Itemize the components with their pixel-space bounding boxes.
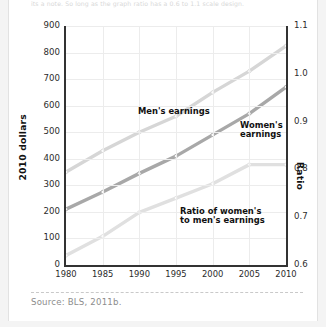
plot-region: 0100200300400500600700800900 0.60.70.80.… [66, 26, 286, 265]
x-axis-line [64, 265, 288, 267]
y-axis-left-tick-label: 300 [20, 179, 60, 189]
x-axis-tick-label: 2010 [264, 269, 308, 279]
y-axis-left-tick-label: 600 [20, 100, 60, 110]
y-axis-left-tick-label: 800 [20, 47, 60, 57]
series-label-ratio: Ratio of women's to men's earnings [180, 207, 265, 226]
y-axis-left-tick-label: 700 [20, 73, 60, 83]
y-axis-left-tick-label: 400 [20, 153, 60, 163]
screenshot-root: its a note. So long as the graph ratio h… [0, 0, 326, 327]
gridline-vertical [139, 26, 140, 265]
gridline-vertical [176, 26, 177, 265]
y-axis-right-tick-label: 0.6 [294, 259, 326, 269]
series-label-mens-earnings: Men's earnings [138, 107, 210, 116]
y-axis-right-tick-label: 0.7 [294, 211, 326, 221]
y-axis-left-line [64, 26, 66, 265]
y-axis-right-tick-label: 0.9 [294, 116, 326, 126]
chart-area: 2010 dollars Ratio 010020030040050060070… [9, 14, 319, 286]
series-point [66, 208, 68, 211]
figure-card: its a note. So long as the graph ratio h… [8, 0, 318, 321]
y-axis-left-tick-label: 500 [20, 126, 60, 136]
y-axis-left-tick-label: 200 [20, 206, 60, 216]
y-axis-left-tick-label: 900 [20, 20, 60, 30]
y-axis-left-tick-label: 100 [20, 232, 60, 242]
top-caption-text: its a note. So long as the graph ratio h… [31, 0, 303, 10]
series-label-womens-earnings: Women's earnings [240, 121, 283, 140]
series-point [66, 170, 68, 173]
y-axis-left-tick-label: 0 [20, 259, 60, 269]
source-note: Source: BLS, 2011b. [31, 297, 122, 307]
y-axis-right-line [286, 26, 288, 265]
gridline-vertical [103, 26, 104, 265]
gridline-vertical [249, 26, 250, 265]
footer-divider [31, 292, 303, 293]
y-axis-left-title: 2010 dollars [17, 114, 28, 181]
series-point [66, 254, 68, 257]
y-axis-right-tick-label: 0.8 [294, 163, 326, 173]
gridline-vertical [213, 26, 214, 265]
y-axis-right-tick-label: 1.0 [294, 68, 326, 78]
y-axis-right-tick-label: 1.1 [294, 20, 326, 30]
